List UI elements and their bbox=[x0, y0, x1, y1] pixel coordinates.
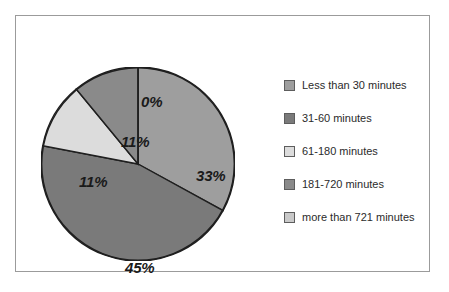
pie-chart: 0% 33% 45% 11% 11% bbox=[41, 67, 235, 261]
pie-label-31-60-minutes: 45% bbox=[125, 259, 154, 276]
pie-label-less-than-30-minutes: 33% bbox=[196, 167, 225, 184]
chart-legend: Less than 30 minutes 31-60 minutes 61-18… bbox=[284, 78, 444, 225]
chart-page: 0% 33% 45% 11% 11% Less than 30 minutes … bbox=[0, 0, 449, 292]
pie-svg bbox=[41, 67, 235, 261]
pie-label-61-180-minutes: 11% bbox=[79, 173, 107, 190]
legend-item-less-than-30-minutes[interactable]: Less than 30 minutes bbox=[284, 78, 444, 93]
legend-item-31-60-minutes[interactable]: 31-60 minutes bbox=[284, 111, 444, 126]
legend-item-181-720-minutes[interactable]: 181-720 minutes bbox=[284, 177, 444, 192]
legend-swatch-icon bbox=[284, 179, 295, 190]
chart-frame: 0% 33% 45% 11% 11% Less than 30 minutes … bbox=[15, 15, 430, 272]
legend-swatch-icon bbox=[284, 113, 295, 124]
legend-label: more than 721 minutes bbox=[302, 211, 415, 224]
pie-label-181-720-minutes: 11% bbox=[121, 133, 149, 150]
pie-label-more-than-721-minutes: 0% bbox=[141, 93, 162, 110]
legend-label: 181-720 minutes bbox=[302, 178, 384, 191]
legend-swatch-icon bbox=[284, 212, 295, 223]
legend-label: Less than 30 minutes bbox=[302, 79, 407, 92]
legend-item-more-than-721-minutes[interactable]: more than 721 minutes bbox=[284, 210, 444, 225]
legend-swatch-icon bbox=[284, 80, 295, 91]
legend-label: 31-60 minutes bbox=[302, 112, 372, 125]
legend-label: 61-180 minutes bbox=[302, 145, 378, 158]
legend-item-61-180-minutes[interactable]: 61-180 minutes bbox=[284, 144, 444, 159]
legend-swatch-icon bbox=[284, 146, 295, 157]
